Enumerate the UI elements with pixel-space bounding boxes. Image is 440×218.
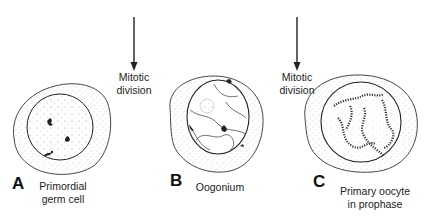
cell-oogonium (170, 76, 263, 172)
caption-c: Primary oocyte in prophase (333, 185, 417, 211)
caption-a: Primordial germ cell (33, 180, 93, 206)
arrow-label-1: Mitotic division (114, 71, 154, 97)
arrow-mitotic-division-2 (294, 17, 301, 71)
panel-letter-a: A (12, 175, 24, 192)
caption-a-line2: germ cell (33, 193, 93, 206)
caption-c-line1: Primary oocyte (333, 185, 417, 198)
arrow-label-1-line1: Mitotic (114, 71, 154, 84)
caption-b: Oogonium (190, 181, 250, 194)
panel-letter-b: B (170, 172, 182, 189)
caption-a-line1: Primordial (33, 180, 93, 193)
caption-c-line2: in prophase (333, 198, 417, 211)
arrow-label-1-line2: division (114, 84, 154, 97)
cell-primordial-germ-cell (13, 84, 110, 175)
caption-b-line1: Oogonium (190, 181, 250, 194)
arrow-label-2: Mitotic division (277, 71, 317, 97)
arrow-label-2-line1: Mitotic (277, 71, 317, 84)
arrow-label-2-line2: division (277, 84, 317, 97)
panel-letter-c: C (313, 173, 325, 190)
cell-primary-oocyte (305, 75, 418, 172)
arrow-mitotic-division-1 (131, 17, 138, 71)
